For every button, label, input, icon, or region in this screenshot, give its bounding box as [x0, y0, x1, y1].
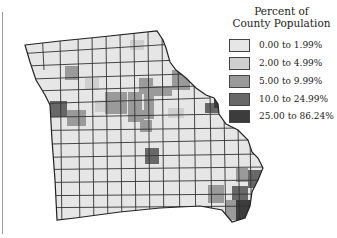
legend-title: Percent of County Population — [226, 5, 337, 29]
legend-item: 10.0 to 24.99% — [229, 92, 328, 106]
legend-label: 10.0 to 24.99% — [259, 94, 328, 104]
legend-swatch — [229, 75, 250, 88]
legend: Percent of County Population 0.00 to 1.9… — [226, 5, 337, 29]
legend-item: 5.00 to 9.99% — [229, 74, 322, 88]
legend-label: 25.00 to 86.24% — [259, 111, 334, 121]
legend-title-line1: Percent of — [226, 5, 337, 17]
legend-title-line2: County Population — [226, 17, 337, 29]
legend-swatch — [229, 93, 250, 106]
legend-item: 0.00 to 1.99% — [229, 38, 322, 52]
legend-label: 0.00 to 1.99% — [259, 40, 322, 50]
legend-item: 25.00 to 86.24% — [229, 109, 334, 123]
legend-swatch — [229, 110, 250, 123]
legend-swatch — [229, 39, 250, 52]
legend-label: 2.00 to 4.99% — [259, 58, 322, 68]
legend-label: 5.00 to 9.99% — [259, 76, 322, 86]
legend-swatch — [229, 57, 250, 70]
legend-item: 2.00 to 4.99% — [229, 56, 322, 70]
